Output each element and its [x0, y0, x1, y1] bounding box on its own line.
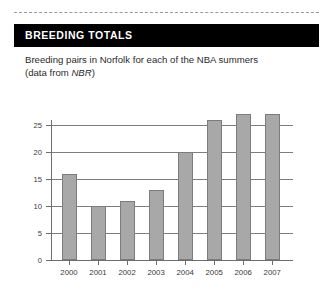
gridline	[52, 125, 293, 126]
caption-line-1: Breeding pairs in Norfolk for each of th…	[25, 54, 258, 65]
x-axis-tick	[272, 261, 273, 265]
plot-area: 0510152025200020012002200320042005200620…	[25, 100, 311, 290]
caption-source-abbreviation: NBR	[71, 67, 91, 78]
y-axis-tick-label: 25	[34, 121, 42, 130]
panel-caption: Breeding pairs in Norfolk for each of th…	[25, 53, 311, 79]
y-axis-tick-label: 0	[38, 256, 42, 265]
y-axis-line	[51, 120, 52, 261]
x-axis-tick	[243, 261, 244, 265]
y-axis-tick-label: 5	[38, 229, 42, 238]
panel-header-bar: BREEDING TOTALS	[14, 24, 319, 47]
x-axis-tick	[127, 261, 128, 265]
y-axis-tick	[46, 125, 51, 126]
x-axis-tick	[214, 261, 215, 265]
x-axis-tick	[69, 261, 70, 265]
bar	[91, 206, 106, 260]
x-axis-line	[51, 260, 293, 261]
bar	[207, 120, 222, 260]
gridline	[52, 152, 293, 153]
bar	[236, 114, 251, 260]
y-axis-tick	[46, 152, 51, 153]
caption-line-2-prefix: (data from	[25, 67, 71, 78]
x-axis-tick	[98, 261, 99, 265]
x-axis-tick	[185, 261, 186, 265]
y-axis-tick-label: 10	[34, 202, 42, 211]
breeding-pairs-bar-chart: 0510152025200020012002200320042005200620…	[25, 100, 311, 290]
bar	[265, 114, 280, 260]
caption-line-2-suffix: )	[92, 67, 95, 78]
bar	[178, 152, 193, 260]
dashed-cut-line	[14, 12, 319, 13]
bar	[149, 190, 164, 260]
page-canvas: BREEDING TOTALS Breeding pairs in Norfol…	[0, 0, 333, 306]
page-title: BREEDING TOTALS	[25, 29, 133, 42]
y-axis-tick-label: 15	[34, 175, 42, 184]
y-axis-tick	[46, 206, 51, 207]
gridline	[52, 233, 293, 234]
y-axis-tick	[46, 233, 51, 234]
gridline	[52, 179, 293, 180]
bar	[120, 201, 135, 260]
gridline	[52, 206, 293, 207]
breeding-totals-panel: BREEDING TOTALS Breeding pairs in Norfol…	[14, 24, 319, 296]
bar	[62, 174, 77, 260]
y-axis-tick	[46, 260, 51, 261]
y-axis-tick-label: 20	[34, 148, 42, 157]
x-axis-tick	[156, 261, 157, 265]
x-axis-tick-label: 2007	[252, 268, 292, 277]
y-axis-tick	[46, 179, 51, 180]
